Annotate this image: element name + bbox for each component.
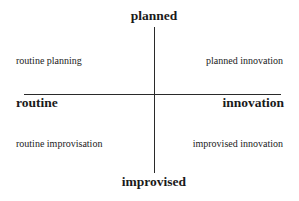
quadrant-label-bottom-right: improvised innovation	[193, 138, 283, 150]
axis-label-right: innovation	[222, 95, 284, 111]
quadrant-label-top-left: routine planning	[16, 55, 82, 67]
axis-label-left: routine	[16, 95, 58, 111]
vertical-axis-line	[154, 27, 155, 173]
axis-label-bottom: improvised	[122, 174, 186, 190]
axis-label-top: planned	[131, 8, 178, 24]
quadrant-label-bottom-left: routine improvisation	[16, 138, 102, 150]
quadrant-label-top-right: planned innovation	[206, 55, 283, 67]
quadrant-diagram: planned improvised routine innovation ro…	[0, 0, 299, 201]
